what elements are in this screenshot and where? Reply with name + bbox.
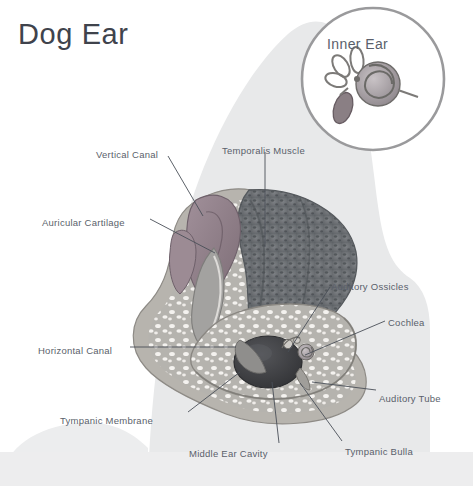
label-temporalis-muscle: Temporalis Muscle: [222, 145, 305, 156]
diagram-canvas: Dog Ear Inner Ear Vertical CanalTemporal…: [0, 0, 473, 486]
label-tympanic-membrane: Tympanic Membrane: [60, 415, 153, 426]
label-tympanic-bulla: Tympanic Bulla: [345, 446, 413, 457]
label-cochlea: Cochlea: [388, 317, 425, 328]
inner-ear-inset: [302, 8, 444, 150]
label-middle-ear-cavity: Middle Ear Cavity: [189, 448, 268, 459]
inset-title: Inner Ear: [327, 36, 388, 52]
dog-ear-anatomy-illustration: [0, 0, 473, 486]
label-horizontal-canal: Horizontal Canal: [38, 345, 112, 356]
label-auditory-tube: Auditory Tube: [379, 393, 441, 404]
page-title: Dog Ear: [18, 18, 129, 51]
label-auricular-cartilage: Auricular Cartilage: [42, 217, 125, 228]
label-auditory-ossicles: Auditory Ossicles: [331, 281, 409, 292]
label-vertical-canal: Vertical Canal: [96, 149, 158, 160]
